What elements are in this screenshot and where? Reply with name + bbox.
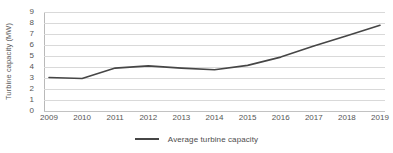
x-axis-tick-label: 2016 — [264, 113, 298, 123]
plot-area: 0123456789 — [44, 12, 385, 111]
y-axis-tick-label: 7 — [18, 30, 34, 38]
x-axis-tick-label: 2009 — [32, 113, 66, 123]
line-chart: Turbine capacity (MW) 0123456789 2009201… — [0, 0, 393, 153]
legend-label: Average turbine capacity — [168, 135, 258, 144]
x-axis-tick-label: 2012 — [131, 113, 165, 123]
y-axis-title: Turbine capacity (MW) — [0, 0, 18, 122]
y-axis-tick-label: 9 — [18, 8, 34, 16]
x-axis-tick-label: 2011 — [98, 113, 132, 123]
legend-line-swatch-icon — [135, 138, 159, 140]
chart-legend: Average turbine capacity — [0, 131, 393, 147]
x-axis-tick-label: 2014 — [198, 113, 232, 123]
series-line-average-turbine-capacity — [44, 12, 385, 111]
y-axis-tick-label: 6 — [18, 41, 34, 49]
x-axis-tick-labels: 2009201020112012201320142015201620172018… — [44, 113, 385, 125]
x-axis-tick-label: 2015 — [231, 113, 265, 123]
x-axis-tick-label: 2019 — [363, 113, 393, 123]
y-axis-tick-label: 8 — [18, 19, 34, 27]
x-axis-tick-label: 2017 — [297, 113, 331, 123]
y-axis-tick-label: 5 — [18, 52, 34, 60]
y-axis-tick-label: 1 — [18, 96, 34, 104]
y-axis-tick-label: 2 — [18, 85, 34, 93]
y-axis-tick-label: 4 — [18, 63, 34, 71]
y-axis-tick-label: 3 — [18, 74, 34, 82]
x-axis-tick-label: 2018 — [330, 113, 364, 123]
x-axis-tick-label: 2013 — [164, 113, 198, 123]
x-axis-tick-label: 2010 — [65, 113, 99, 123]
y-axis-title-text: Turbine capacity (MW) — [5, 22, 14, 99]
